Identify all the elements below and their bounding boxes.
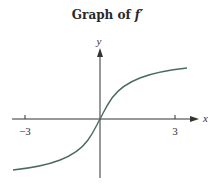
x-axis-arrow-icon (190, 116, 199, 122)
x-tick-label-neg3: −3 (19, 125, 31, 137)
y-axis-label: y (96, 35, 102, 47)
x-tick-label-3: 3 (172, 125, 178, 137)
x-axis-label: x (202, 112, 208, 124)
chart-canvas: −3 3 x y (0, 0, 215, 188)
y-axis-arrow-icon (97, 48, 103, 57)
